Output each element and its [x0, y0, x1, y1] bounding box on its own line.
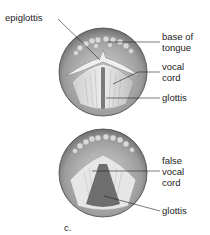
label-false-vocal-cord-line2: vocal [162, 166, 184, 177]
label-false-vocal-cord-line1: false [162, 155, 182, 166]
label-glottis-top: glottis [162, 92, 187, 103]
label-vocal-cord-line2: cord [162, 72, 180, 83]
glottis-top [101, 67, 105, 109]
label-base-of-tongue-line2: tongue [162, 42, 191, 53]
label-glottis-bottom: glottis [162, 205, 187, 216]
label-epiglottis: epiglottis [5, 12, 43, 23]
bottom-larynx-view [59, 129, 160, 217]
panel-label: c. [64, 222, 71, 233]
label-false-vocal-cord-line3: cord [162, 177, 180, 188]
label-base-of-tongue-line1: base of [162, 31, 193, 42]
label-vocal-cord-line1: vocal [162, 61, 184, 72]
top-larynx-view [58, 19, 160, 116]
